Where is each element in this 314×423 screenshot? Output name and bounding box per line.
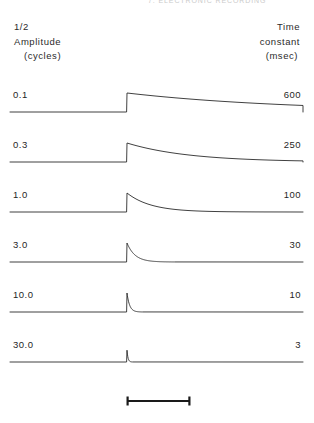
amplitude-label: 0.1 bbox=[13, 89, 28, 100]
trace-row: 10.0 10 bbox=[0, 282, 314, 332]
scale-bar bbox=[0, 392, 314, 410]
trace-row: 1.0 100 bbox=[0, 182, 314, 232]
trace-curve-1 bbox=[0, 132, 314, 182]
time-constant-label: 10 bbox=[289, 289, 301, 300]
left-column-header: 1/2 Amplitude (cycles) bbox=[14, 20, 61, 64]
trace-curve-0 bbox=[0, 82, 314, 132]
amplitude-label: 1.0 bbox=[13, 189, 28, 200]
trace-curve-3 bbox=[0, 232, 314, 282]
right-header-line-2: constant bbox=[260, 35, 300, 50]
amplitude-label: 0.3 bbox=[13, 139, 28, 150]
time-constant-label: 30 bbox=[289, 239, 301, 250]
right-header-line-3: (msec) bbox=[260, 49, 300, 64]
time-constant-label: 3 bbox=[295, 339, 301, 350]
right-column-header: Time constant (msec) bbox=[260, 20, 300, 64]
trace-row: 3.0 30 bbox=[0, 232, 314, 282]
amplitude-label: 10.0 bbox=[13, 289, 34, 300]
amplitude-label: 30.0 bbox=[13, 339, 34, 350]
scale-bar-graphic bbox=[0, 392, 314, 410]
left-header-line-3: (cycles) bbox=[14, 49, 61, 64]
trace-row: 0.1 600 bbox=[0, 82, 314, 132]
time-constant-label: 600 bbox=[284, 89, 301, 100]
time-constant-label: 250 bbox=[284, 139, 301, 150]
running-head: 7. ELECTRONIC RECORDING bbox=[148, 0, 308, 6]
trace-curve-2 bbox=[0, 182, 314, 232]
amplitude-label: 3.0 bbox=[13, 239, 28, 250]
left-header-line-1: 1/2 bbox=[14, 20, 61, 35]
time-constant-label: 100 bbox=[284, 189, 301, 200]
trace-row: 30.0 3 bbox=[0, 332, 314, 382]
trace-row: 0.3 250 bbox=[0, 132, 314, 182]
left-header-line-2: Amplitude bbox=[14, 35, 61, 50]
trace-curve-5 bbox=[0, 332, 314, 382]
right-header-line-1: Time bbox=[260, 20, 300, 35]
trace-curve-4 bbox=[0, 282, 314, 332]
figure-root: 7. ELECTRONIC RECORDING 1/2 Amplitude (c… bbox=[0, 0, 314, 423]
